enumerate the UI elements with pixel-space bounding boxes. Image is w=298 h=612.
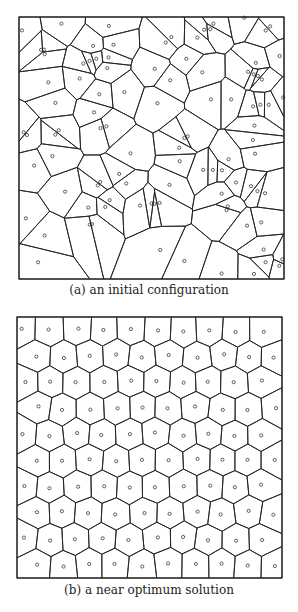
optimum-cell — [209, 548, 236, 578]
optimum-site — [60, 408, 63, 411]
optimum-site — [182, 485, 185, 488]
initial-site — [87, 206, 90, 209]
initial-cell — [158, 117, 191, 148]
optimum-cell — [36, 523, 63, 556]
optimum-cell — [210, 339, 238, 371]
initial-site — [220, 169, 223, 172]
optimum-site — [182, 330, 185, 333]
optimum-site — [208, 329, 211, 332]
initial-site — [78, 77, 81, 80]
optimum-site — [129, 327, 132, 330]
initial-site — [118, 172, 121, 175]
initial-site — [252, 73, 255, 76]
initial-site — [60, 22, 63, 25]
initial-site — [260, 78, 263, 81]
initial-cell — [154, 64, 190, 103]
optimum-cell — [49, 550, 77, 578]
initial-site — [156, 102, 159, 105]
optimum-cell — [247, 366, 282, 399]
optimum-cell — [76, 392, 104, 425]
initial-site — [212, 22, 215, 25]
optimum-site — [220, 562, 223, 565]
optimum-site — [155, 379, 158, 382]
initial-cell — [209, 129, 244, 170]
optimum-site — [246, 458, 249, 461]
optimum-cell — [259, 494, 282, 534]
optimum-site — [113, 562, 116, 565]
optimum-site — [235, 539, 238, 542]
optimum-site — [48, 487, 51, 490]
initial-cell — [37, 167, 82, 218]
initial-site — [82, 62, 85, 65]
optimum-site — [88, 458, 91, 461]
initial-cell — [100, 153, 135, 186]
initial-site — [264, 261, 267, 264]
optimum-site — [128, 486, 131, 489]
optimum-site — [60, 510, 63, 513]
initial-site — [185, 57, 188, 60]
optimum-site — [193, 405, 196, 408]
initial-site — [24, 217, 27, 220]
initial-cell — [153, 130, 197, 155]
initial-site — [267, 103, 270, 106]
initial-site — [107, 24, 110, 27]
optimum-site — [260, 483, 263, 486]
optimum-site — [261, 538, 264, 541]
optimum-cell — [91, 470, 118, 503]
optimum-site — [86, 512, 89, 515]
optimum-site — [182, 381, 185, 384]
optimum-site — [35, 459, 38, 462]
optimum-site — [246, 408, 249, 411]
initial-site — [211, 168, 214, 171]
optimum-site — [260, 379, 263, 382]
initial-site — [226, 205, 229, 208]
optimum-site — [141, 565, 144, 568]
initial-cell — [111, 69, 144, 118]
optimum-cell — [127, 549, 157, 578]
optimum-site — [234, 330, 237, 333]
optimum-cell — [222, 471, 249, 504]
initial-site — [245, 224, 248, 227]
optimum-site — [182, 535, 185, 538]
optimum-site — [166, 562, 169, 565]
initial-site — [278, 264, 281, 267]
optimum-site — [62, 356, 65, 359]
initial-site — [99, 180, 102, 183]
initial-site — [92, 111, 95, 114]
optimum-site — [248, 355, 251, 358]
optimum-site — [115, 353, 118, 356]
optimum-site — [141, 406, 144, 409]
initial-cell — [19, 66, 65, 102]
initial-cell — [19, 149, 51, 193]
optimum-site — [153, 431, 156, 434]
initial-site — [281, 258, 284, 261]
optimum-site — [167, 459, 170, 462]
initial-site — [262, 248, 265, 251]
optimum-site — [156, 329, 159, 332]
initial-cell — [273, 234, 284, 264]
initial-site — [43, 234, 46, 237]
optimum-cell — [249, 524, 282, 557]
initial-site — [96, 184, 99, 187]
initial-site — [168, 183, 171, 186]
initial-site — [278, 54, 281, 57]
initial-site — [249, 185, 252, 188]
optimum-site — [182, 434, 185, 437]
initial-cell — [150, 192, 162, 228]
initial-cell — [217, 160, 234, 182]
initial-site — [259, 103, 262, 106]
initial-site — [36, 261, 39, 264]
optimum-site — [22, 536, 25, 539]
optimum-cell — [17, 467, 38, 506]
optimum-site — [272, 356, 275, 359]
optimum-site — [73, 538, 76, 541]
initial-cell — [102, 48, 133, 65]
initial-site — [107, 56, 110, 59]
initial-site — [47, 81, 50, 84]
initial-cell — [169, 44, 204, 75]
initial-site — [260, 221, 263, 224]
optimum-site — [196, 510, 199, 513]
optimum-site — [260, 434, 263, 437]
optimum-site — [168, 512, 171, 515]
optimum-site — [194, 562, 197, 565]
